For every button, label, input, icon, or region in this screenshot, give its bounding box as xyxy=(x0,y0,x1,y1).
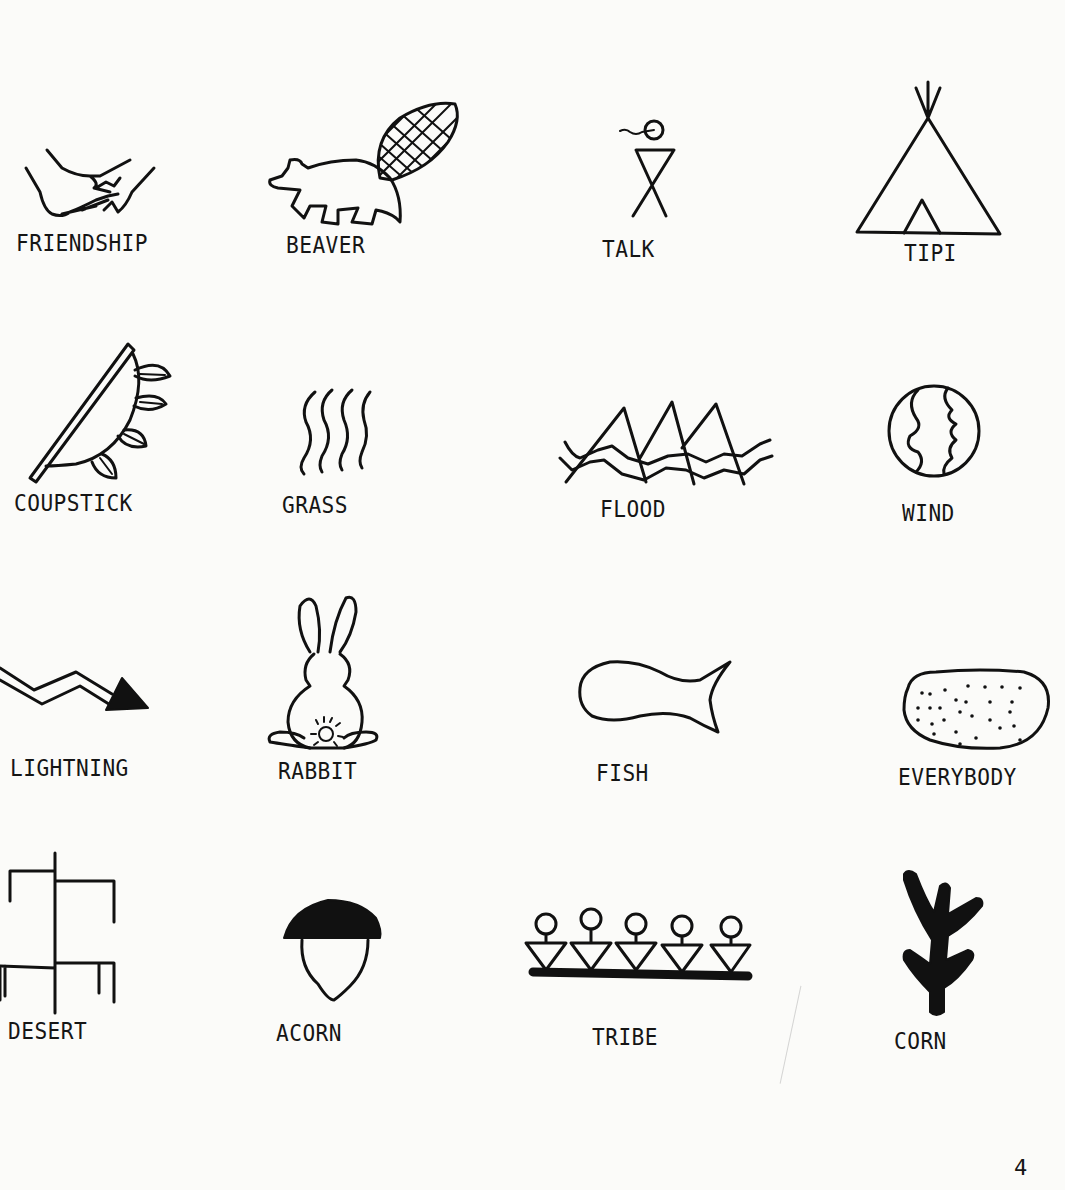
symbol-label: TRIBE xyxy=(592,1024,658,1050)
symbol-label: ACORN xyxy=(276,1020,342,1046)
corn-icon xyxy=(0,0,1000,1020)
symbol-label: CORN xyxy=(894,1028,947,1054)
symbol-label: DESERT xyxy=(8,1018,87,1044)
pictograph-page: FRIENDSHIP BEAVER TALK TIPI xyxy=(0,0,1065,1190)
page-number: 4 xyxy=(1014,1155,1027,1180)
